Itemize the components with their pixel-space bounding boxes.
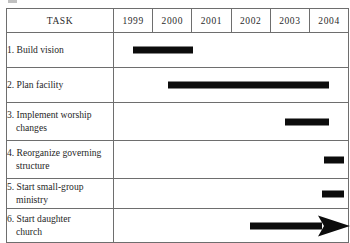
column-header-1999: 1999: [114, 9, 153, 33]
task-label-6-line2: church: [7, 226, 113, 238]
task-label-6-line1: 6. Start daughter: [7, 213, 113, 225]
task-label-3: 3. Implement worship changes: [7, 103, 114, 141]
task-label-1: 1. Build vision: [7, 33, 114, 68]
table-row: 6. Start daughter church: [7, 209, 349, 243]
column-header-2001: 2001: [192, 9, 231, 33]
table-row: 5. Start small-group ministry: [7, 179, 349, 209]
task-label-5: 5. Start small-group ministry: [7, 179, 114, 209]
task-label-5-line2: ministry: [7, 194, 113, 206]
task-label-4: 4. Reorganize governing structure: [7, 141, 114, 179]
gantt-arrow-6: [250, 215, 350, 237]
task-label-1-line1: 1. Build vision: [7, 44, 113, 56]
table-row: 2. Plan facility: [7, 68, 349, 103]
task-label-3-line1: 3. Implement worship: [7, 109, 113, 121]
bar-lane-4: [114, 141, 349, 179]
task-label-3-line2: changes: [7, 122, 113, 134]
gantt-bar-4: [324, 156, 344, 163]
gantt-bar-3: [285, 118, 329, 125]
header-row: TASK 1999 2000 2001 2002 2003 2004: [7, 9, 349, 33]
column-header-2003: 2003: [270, 9, 309, 33]
task-label-2-line1: 2. Plan facility: [7, 79, 113, 91]
task-label-4-line1: 4. Reorganize governing: [7, 147, 113, 159]
gantt-table: TASK 1999 2000 2001 2002 2003 2004 1. Bu…: [6, 8, 349, 243]
task-label-4-line2: structure: [7, 160, 113, 172]
gantt-bar-1: [133, 47, 193, 54]
bar-lane-5: [114, 179, 349, 209]
gantt-bar-2: [168, 82, 329, 89]
gantt-bar-5: [322, 190, 344, 197]
table-row: 3. Implement worship changes: [7, 103, 349, 141]
table-row: 4. Reorganize governing structure: [7, 141, 349, 179]
column-header-task: TASK: [7, 9, 114, 33]
table-header: TASK 1999 2000 2001 2002 2003 2004: [7, 9, 349, 33]
task-label-2: 2. Plan facility: [7, 68, 114, 103]
task-label-5-line1: 5. Start small-group: [7, 181, 113, 193]
column-header-2004: 2004: [309, 9, 348, 33]
table-body: 1. Build vision 2. Plan facility: [7, 33, 349, 243]
bar-lane-3: [114, 103, 349, 141]
bar-lane-6: [114, 209, 349, 243]
bar-lane-1: [114, 33, 349, 68]
caption-remnant: [8, 0, 17, 3]
table-row: 1. Build vision: [7, 33, 349, 68]
column-header-2002: 2002: [231, 9, 270, 33]
bar-lane-2: [114, 68, 349, 103]
column-header-2000: 2000: [153, 9, 192, 33]
task-label-6: 6. Start daughter church: [7, 209, 114, 243]
